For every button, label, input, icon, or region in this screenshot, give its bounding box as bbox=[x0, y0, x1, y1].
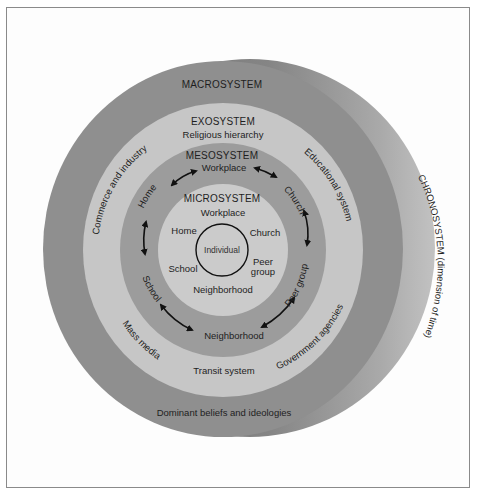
exosystem-item-religious-hierarchy: Religious hierarchy bbox=[183, 129, 264, 140]
ecological-systems-diagram: MACROSYSTEM Dominant beliefs and ideolog… bbox=[0, 0, 480, 497]
macrosystem-item-beliefs: Dominant beliefs and ideologies bbox=[157, 407, 292, 418]
mesosystem-item-neighborhood: Neighborhood bbox=[204, 330, 264, 341]
microsystem-item-group: group bbox=[251, 266, 275, 277]
microsystem-item-neighborhood: Neighborhood bbox=[193, 284, 253, 295]
mesosystem-label: MESOSYSTEM bbox=[186, 150, 259, 161]
macrosystem-label: MACROSYSTEM bbox=[182, 79, 263, 90]
exosystem-item-transit: Transit system bbox=[193, 365, 254, 376]
mesosystem-item-workplace: Workplace bbox=[202, 162, 247, 173]
individual-label: Individual bbox=[204, 245, 240, 255]
microsystem-item-church: Church bbox=[250, 227, 281, 238]
exosystem-label: EXOSYSTEM bbox=[191, 116, 255, 127]
microsystem-item-workplace: Workplace bbox=[201, 207, 246, 218]
microsystem-label: MICROSYSTEM bbox=[184, 193, 261, 204]
microsystem-item-school: School bbox=[168, 263, 197, 274]
microsystem-item-home: Home bbox=[171, 225, 196, 236]
